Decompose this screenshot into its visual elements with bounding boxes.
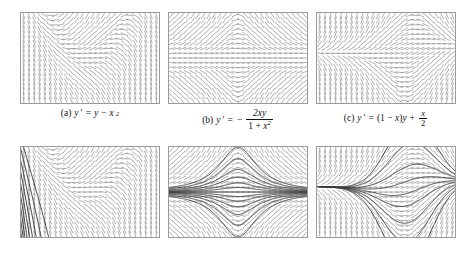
caption-c-equals: = — [368, 114, 375, 124]
caption-a-label: (a) — [61, 109, 72, 119]
caption-b-label: (b) — [202, 116, 213, 126]
caption-a-prime: ′ — [81, 109, 83, 119]
caption-c-fraction: x 2 — [419, 109, 427, 128]
caption-b-y: y — [216, 116, 220, 126]
direction-fields-figure: (a) y′ = y − x2 (b) y′ = − 2xy 1 + x2 (c… — [0, 0, 476, 254]
caption-c-prime: ′ — [364, 114, 366, 124]
direction-field-panel-b — [168, 12, 308, 104]
caption-b-fraction: 2xy 1 + x2 — [246, 109, 272, 132]
caption-c-label: (c) — [344, 114, 355, 124]
caption-a-y: y — [74, 109, 78, 119]
caption-b-negation: − — [236, 116, 243, 126]
direction-field-panel-a — [20, 12, 160, 104]
caption-c-plus: + — [409, 114, 416, 124]
caption-c: (c) y′ = (1 − x)y + x 2 — [316, 109, 456, 128]
caption-c-y: y — [357, 114, 361, 124]
caption-c-group: (1 − x)y — [377, 114, 407, 124]
caption-b-equals: = — [227, 116, 234, 126]
caption-b-prime: ′ — [223, 116, 225, 126]
caption-b-denominator: 1 + x2 — [246, 119, 272, 132]
solution-curves-panel-a — [20, 146, 160, 238]
caption-a-minus: − — [100, 109, 107, 119]
caption-a-x: x — [110, 109, 114, 119]
caption-a-equation: y′ = y − x2 — [74, 109, 119, 119]
caption-c-numerator: x — [419, 109, 427, 118]
direction-field-panel-c — [316, 12, 456, 104]
caption-c-equation: y′ = (1 − x)y + x 2 — [357, 109, 428, 128]
caption-b: (b) y′ = − 2xy 1 + x2 — [168, 109, 308, 132]
caption-c-denominator: 2 — [419, 118, 427, 128]
solution-curves-panel-b — [168, 146, 308, 238]
caption-a-rhs-y: y — [94, 109, 98, 119]
caption-a-exponent: 2 — [116, 110, 119, 117]
caption-b-numerator: 2xy — [251, 109, 268, 119]
caption-a: (a) y′ = y − x2 — [20, 109, 160, 119]
caption-a-equals: = — [85, 109, 92, 119]
caption-b-equation: y′ = − 2xy 1 + x2 — [216, 109, 274, 132]
solution-curves-panel-c — [316, 146, 456, 238]
